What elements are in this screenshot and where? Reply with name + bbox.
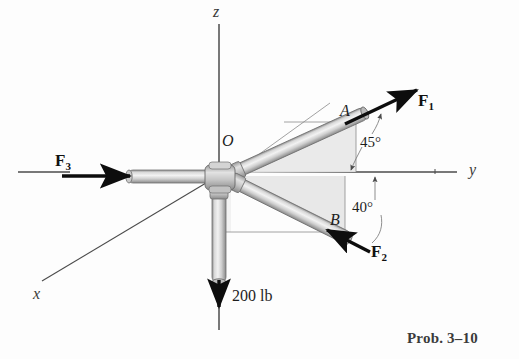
force-f1-symbol: F [418,91,428,110]
force-f2-label: F2 [371,243,387,263]
force-f1-label: F1 [418,92,434,112]
origin-label: O [222,133,234,149]
diagram-vector-layer [0,0,519,359]
force-f2-symbol: F [371,242,381,261]
weight-magnitude-label: 200 lb [232,288,272,304]
angle-40-label: 40° [352,200,373,215]
point-b-label: B [330,212,340,228]
force-f3-symbol: F [55,151,65,170]
force-f1-subscript: 1 [428,100,434,112]
origin-hub-bottom-collar [209,186,231,193]
origin-hub-fitting [205,162,235,193]
figure-caption: Prob. 3–10 [407,331,478,346]
point-a-label: A [340,103,350,119]
z-axis-label: z [213,4,219,20]
angle-45-leader-upper [372,114,381,134]
rod-vertical-body [212,186,226,282]
force-f3-label: F3 [55,152,71,172]
angle-45-label: 45° [360,135,381,150]
force-f2-subscript: 2 [381,251,387,263]
rod-vertical [210,186,228,285]
force-f1-arrow [345,90,417,124]
figure-canvas: z y x O A B F1 F2 F3 45° 40° 200 lb Prob… [0,0,519,359]
force-f3-subscript: 3 [65,160,71,172]
x-axis-line [42,183,206,281]
origin-hub-top-collar [209,162,231,169]
y-axis-label: y [469,162,476,178]
x-axis-label: x [33,286,40,302]
angle-40-leader-lower [372,215,382,243]
